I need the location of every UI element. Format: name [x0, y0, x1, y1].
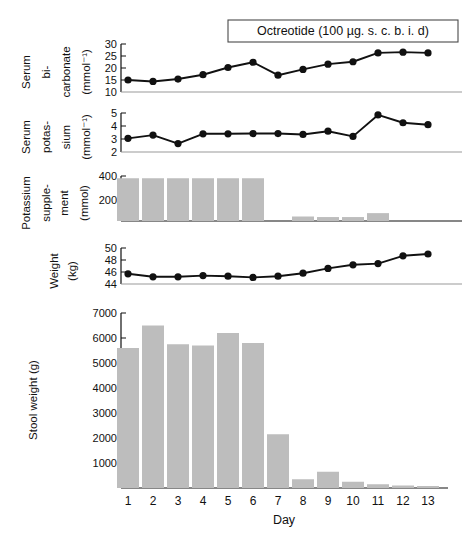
potassium-supplement-bar [117, 178, 139, 221]
serum-bicarbonate-point [199, 71, 206, 78]
ytick-ksupp-200: 200 [99, 194, 117, 206]
panel-weight: Weight (kg) 50 48 46 44 [48, 242, 462, 290]
ytick-bicarb-10: 10 [105, 86, 117, 98]
series-serum-potassium [124, 111, 431, 147]
potassium-supplement-bar [217, 178, 239, 221]
panel-serum-bicarbonate: Serum bi- carbonate (mmol⁻¹) 30 25 20 15… [20, 38, 462, 98]
potassium-supplement-bar [242, 178, 264, 221]
serum-potassium-point [199, 130, 206, 137]
stool-weight-bar [242, 343, 264, 488]
serum-bicarbonate-point [274, 72, 281, 79]
stool-weight-bar [142, 326, 164, 489]
ytick-stool-1000: 1000 [93, 457, 117, 469]
ytick-k-3: 3 [111, 133, 117, 145]
stool-weight-bar [392, 486, 414, 489]
series-serum-bicarbonate [124, 49, 431, 85]
stool-weight-bar [317, 472, 339, 488]
day-tick-label: 1 [125, 494, 132, 508]
axis-label-ksupp-line2: supple- [40, 184, 52, 222]
yaxis-weight [121, 248, 126, 284]
weight-point [224, 273, 231, 280]
axis-label-bicarbonate-line1: Serum [20, 55, 32, 89]
figure-canvas: Octreotide (100 µg. s. c. b. i. d) Serum… [0, 0, 466, 548]
serum-bicarbonate-point [424, 49, 431, 56]
ytick-stool-3000: 3000 [93, 407, 117, 419]
weight-point [124, 270, 131, 277]
axis-label-potassium-line1: Serum [20, 120, 32, 154]
axis-label-bicarbonate-line2: bi- [40, 65, 52, 78]
potassium-supplement-bar [142, 178, 164, 221]
stool-weight-bar [117, 348, 139, 488]
axis-label-potassium-line4: (mmol⁻¹) [80, 114, 92, 160]
ytick-stool-5000: 5000 [93, 357, 117, 369]
serum-potassium-point [324, 128, 331, 135]
axis-label-potassium-line3: sium [60, 125, 72, 149]
potassium-supplement-bar [292, 217, 314, 222]
serum-potassium-point [174, 140, 181, 147]
stool-weight-bar [217, 333, 239, 488]
axis-label-weight-line1: Weight [48, 252, 60, 288]
serum-potassium-line [128, 115, 428, 144]
ytick-stool-7000: 7000 [93, 307, 117, 319]
clinical-multipanel-figure: Octreotide (100 µg. s. c. b. i. d) Serum… [0, 0, 466, 548]
stool-weight-bar [192, 346, 214, 489]
panel-serum-potassium: Serum potas- sium (mmol⁻¹) 5 4 3 2 [20, 107, 462, 160]
day-tick-label: 10 [346, 494, 360, 508]
day-tick-label: 4 [200, 494, 207, 508]
axis-label-potassium-line2: potas- [40, 121, 52, 153]
yaxis-potassium [121, 113, 126, 152]
ytick-bicarb-30: 30 [105, 38, 117, 50]
serum-bicarbonate-point [149, 78, 156, 85]
axis-label-stool-weight: Stool weight (g) [27, 360, 39, 440]
series-potassium-supplement [117, 178, 389, 221]
potassium-supplement-bar [342, 217, 364, 221]
serum-potassium-point [224, 130, 231, 137]
ytick-stool-2000: 2000 [93, 432, 117, 444]
ytick-weight-46: 46 [105, 266, 117, 278]
weight-point [374, 260, 381, 267]
serum-bicarbonate-point [249, 59, 256, 66]
serum-potassium-point [249, 130, 256, 137]
day-tick-label: 5 [225, 494, 232, 508]
potassium-supplement-bar [367, 213, 389, 221]
day-tick-label: 2 [150, 494, 157, 508]
ytick-bicarb-25: 25 [105, 50, 117, 62]
weight-point [174, 273, 181, 280]
ytick-weight-50: 50 [105, 242, 117, 254]
treatment-annotation: Octreotide (100 µg. s. c. b. i. d) [228, 20, 458, 42]
ytick-weight-44: 44 [105, 278, 117, 290]
ytick-k-4: 4 [111, 120, 117, 132]
day-tick-label: 8 [300, 494, 307, 508]
serum-bicarbonate-point [324, 61, 331, 68]
day-tick-label: 3 [175, 494, 182, 508]
weight-point [349, 261, 356, 268]
ytick-bicarb-20: 20 [105, 62, 117, 74]
day-tick-label: 13 [421, 494, 435, 508]
weight-point [324, 265, 331, 272]
axis-label-ksupp-line1: Potassium [20, 176, 32, 230]
ytick-k-5: 5 [111, 107, 117, 119]
ytick-stool-4000: 4000 [93, 382, 117, 394]
day-tick-label: 11 [372, 494, 385, 508]
serum-bicarbonate-point [399, 49, 406, 56]
weight-point [399, 252, 406, 259]
serum-potassium-point [424, 121, 431, 128]
serum-potassium-point [124, 135, 131, 142]
serum-potassium-point [149, 132, 156, 139]
serum-potassium-point [299, 131, 306, 138]
day-tick-label: 6 [250, 494, 257, 508]
ytick-stool-6000: 6000 [93, 332, 117, 344]
day-tick-label: 9 [325, 494, 332, 508]
stool-weight-bar [417, 486, 439, 488]
serum-bicarbonate-point [349, 58, 356, 65]
serum-bicarbonate-point [174, 75, 181, 82]
day-tick-label: 12 [396, 494, 410, 508]
axis-label-bicarbonate-line3: carbonate [60, 46, 72, 97]
serum-bicarbonate-point [299, 66, 306, 73]
ytick-weight-48: 48 [105, 254, 117, 266]
serum-potassium-point [274, 130, 281, 137]
ytick-ksupp-400: 400 [99, 170, 117, 182]
x-axis-day-labels: 12345678910111213 [125, 494, 435, 508]
potassium-supplement-bar [167, 178, 189, 221]
weight-point [299, 270, 306, 277]
